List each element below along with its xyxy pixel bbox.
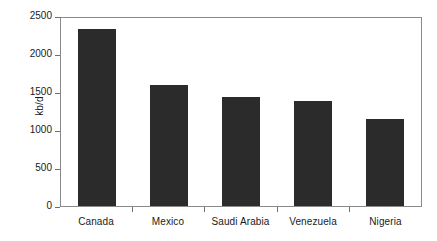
- y-tick-label: 0: [12, 200, 52, 211]
- x-label-venezuela: Venezuela: [277, 216, 349, 227]
- bar-nigeria: [366, 119, 403, 206]
- y-tick-label: 500: [12, 162, 52, 173]
- x-tick-mark: [277, 207, 278, 212]
- y-tick-label: 2500: [12, 10, 52, 21]
- y-tick-label: 2000: [12, 48, 52, 59]
- y-tick-label: 1500: [12, 86, 52, 97]
- x-label-canada: Canada: [60, 216, 132, 227]
- bar-venezuela: [294, 101, 331, 206]
- x-label-nigeria: Nigeria: [349, 216, 422, 227]
- bar-saudi-arabia: [222, 97, 259, 206]
- x-tick-mark: [132, 207, 133, 212]
- x-label-mexico: Mexico: [132, 216, 204, 227]
- bar-chart: kb/d 2500 2000 1500 1000 500 0 Canada Me…: [0, 0, 437, 241]
- x-label-saudi-arabia: Saudi Arabia: [204, 216, 277, 227]
- x-tick-mark: [349, 207, 350, 212]
- x-tick-mark: [204, 207, 205, 212]
- plot-area: [60, 17, 422, 207]
- bar-mexico: [150, 85, 187, 206]
- y-tick-label: 1000: [12, 124, 52, 135]
- bar-canada: [78, 29, 115, 206]
